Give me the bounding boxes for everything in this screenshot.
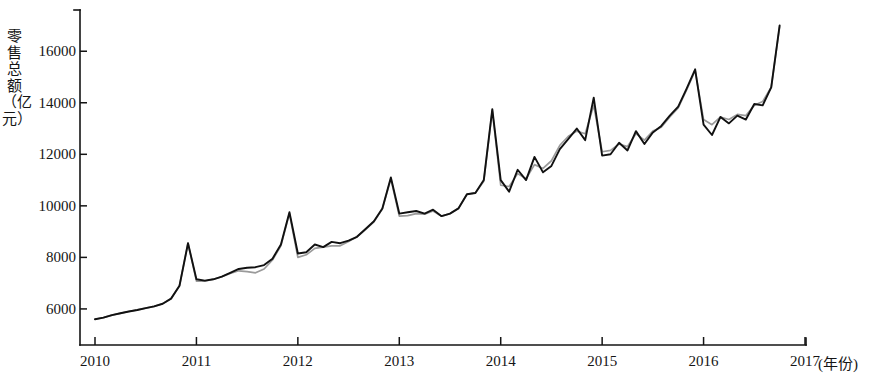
axes-group bbox=[74, 10, 806, 345]
series-group bbox=[95, 25, 780, 319]
chart-canvas: 6000800010000120001400016000 20102011201… bbox=[0, 0, 885, 375]
retail-sales-chart: 零售总额（亿元） 6000800010000120001400016000 20… bbox=[0, 0, 885, 375]
y-tick-label: 6000 bbox=[46, 301, 76, 317]
x-tick-label: 2011 bbox=[182, 353, 211, 369]
x-ticks-group: 20102011201220132014201520162017 bbox=[80, 337, 821, 369]
series-line-actual bbox=[95, 25, 780, 319]
x-tick-label: 2012 bbox=[283, 353, 313, 369]
x-tick-label: 2014 bbox=[486, 353, 517, 369]
series-line-fitted bbox=[95, 27, 780, 319]
y-tick-label: 16000 bbox=[39, 43, 77, 59]
y-tick-label: 10000 bbox=[39, 198, 77, 214]
x-tick-label: 2017 bbox=[790, 353, 821, 369]
y-tick-label: 12000 bbox=[39, 146, 77, 162]
x-tick-label: 2015 bbox=[587, 353, 617, 369]
y-tick-label: 8000 bbox=[46, 249, 76, 265]
x-tick-label: 2016 bbox=[689, 353, 720, 369]
y-tick-label: 14000 bbox=[39, 95, 77, 111]
x-tick-label: 2013 bbox=[384, 353, 414, 369]
x-axis-unit-label: (年份) bbox=[818, 352, 858, 373]
x-tick-label: 2010 bbox=[80, 353, 110, 369]
